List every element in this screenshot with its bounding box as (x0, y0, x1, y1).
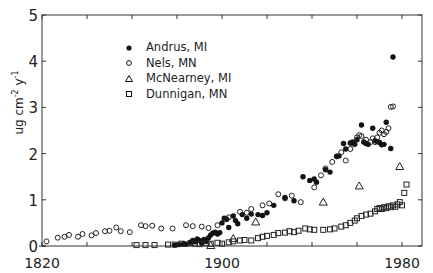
data-point-dunnigan (249, 238, 254, 243)
legend-item-nels: Nels, MN (124, 56, 231, 72)
data-point-andrus (327, 169, 332, 174)
y-axis-label: ug cm-2 y-1 (11, 70, 26, 134)
data-point-andrus (217, 230, 222, 235)
data-point-nels (150, 223, 155, 228)
data-point-nels (127, 230, 132, 235)
data-point-nels (159, 226, 164, 231)
data-point-nels (184, 223, 189, 228)
legend-item-andrus: Andrus, MI (124, 40, 231, 56)
y-tick-label: 4 (28, 53, 38, 71)
data-point-nels (249, 207, 254, 212)
filled-circle-icon (124, 42, 138, 54)
open-triangle-icon (124, 73, 138, 85)
x-tick-label: 1980 (384, 255, 420, 271)
data-point-nels (206, 225, 211, 230)
y-tick-label: 3 (28, 99, 38, 117)
data-point-nels (80, 231, 85, 236)
x-tick-label: 1900 (204, 255, 240, 271)
data-point-nels (44, 239, 49, 244)
data-point-nels (298, 200, 303, 205)
data-point-dunnigan (402, 190, 407, 195)
data-point-nels (94, 231, 99, 236)
open-circle-icon (124, 57, 138, 69)
data-point-andrus (359, 122, 364, 127)
open-square-icon (124, 88, 138, 100)
data-point-andrus (291, 198, 296, 203)
legend: Andrus, MI Nels, MN McNearney, MI Dunnig… (124, 40, 231, 102)
data-point-dunnigan (404, 182, 409, 187)
data-point-andrus (226, 225, 231, 230)
data-point-andrus (255, 212, 260, 217)
legend-item-mcnearney: McNearney, MI (124, 71, 231, 87)
data-point-andrus (384, 119, 389, 124)
data-point-andrus (260, 213, 265, 218)
data-point-nels (244, 210, 249, 215)
data-point-mcnearney (319, 198, 327, 205)
y-tick-label: 1 (28, 192, 38, 210)
data-point-nels (343, 158, 348, 163)
data-point-nels (170, 226, 175, 231)
data-point-nels (55, 235, 60, 240)
data-point-andrus (341, 141, 346, 146)
y-tick-label: 0 (28, 238, 38, 256)
data-point-nels (319, 173, 324, 178)
data-point-nels (215, 223, 220, 228)
data-point-nels (260, 203, 265, 208)
data-point-dunnigan (134, 243, 139, 248)
data-point-nels (190, 224, 195, 229)
data-point-mcnearney (252, 218, 260, 225)
data-point-andrus (314, 180, 319, 185)
data-point-andrus (390, 54, 395, 59)
data-point-andrus (264, 210, 269, 215)
data-point-mcnearney (396, 163, 404, 170)
data-point-andrus (388, 146, 393, 151)
data-point-mcnearney (355, 182, 363, 189)
scatter-chart: 012345182019001980 ug cm-2 y-1 Andrus, M… (0, 0, 433, 273)
data-point-nels (348, 146, 353, 151)
data-point-andrus (244, 216, 249, 221)
data-point-nels (267, 201, 272, 206)
data-point-nels (67, 232, 72, 237)
data-point-nels (276, 192, 281, 197)
data-point-andrus (370, 125, 375, 130)
data-point-nels (199, 224, 204, 229)
data-point-nels (312, 185, 317, 190)
data-point-nels (339, 150, 344, 155)
data-point-nels (118, 229, 123, 234)
data-point-andrus (300, 174, 305, 179)
plot-frame (42, 15, 422, 246)
data-point-dunnigan (143, 243, 148, 248)
data-point-andrus (381, 142, 386, 147)
data-point-nels (114, 225, 119, 230)
data-point-nels (289, 193, 294, 198)
data-point-andrus (235, 221, 240, 226)
data-point-dunnigan (321, 227, 326, 232)
data-point-nels (330, 159, 335, 164)
data-point-dunnigan (152, 243, 157, 248)
y-tick-label: 2 (28, 146, 38, 164)
x-tick-label: 1820 (24, 255, 60, 271)
y-tick-label: 5 (28, 7, 38, 25)
legend-item-dunnigan: Dunnigan, MN (124, 87, 231, 103)
